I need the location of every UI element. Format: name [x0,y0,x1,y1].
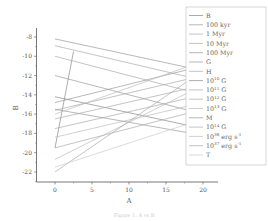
y-tick-label: -8 [26,33,32,40]
x-axis: 05101520 [37,182,219,193]
x-tick-label: 10 [125,186,133,193]
y-axis: -8-10-12-14-16-18-20-22 [22,28,36,182]
series-line [55,85,203,119]
series-line [55,61,203,114]
series-line [55,39,203,71]
series-line [55,71,203,172]
legend: B100 kyr1 Myr10 Myr100 MyrGH1010 G1011 G… [186,7,266,165]
y-tick-label: -18 [22,129,32,136]
y-tick-label: -14 [22,91,32,98]
legend-label: 100 kyr [206,21,231,29]
legend-label: H [206,68,212,75]
y-axis-label: B [12,105,20,110]
figure-caption: Figure 1. A vs B [114,212,155,219]
line-chart: -8-10-12-14-16-18-20-22 05101520 A B B10… [0,0,268,221]
legend-label: 100 Myr [206,49,234,57]
y-tick-label: -10 [22,52,32,59]
series-line [55,76,203,115]
legend-label: B [206,12,211,19]
legend-label: 10 Myr [206,40,230,48]
series-line [55,76,203,111]
y-tick-label: -22 [22,168,32,175]
series-line [55,56,203,95]
y-tick-label: -20 [22,149,32,156]
x-tick-label: 20 [199,186,207,193]
legend-label: G [206,58,211,65]
y-tick-label: -16 [22,110,32,117]
series-line [55,46,203,81]
x-axis-label: A [125,197,132,205]
legend-label: 1 Myr [206,30,226,38]
series-line [55,85,203,159]
legend-label: 1037 erg s-1 [206,141,242,150]
series-line [55,66,203,103]
series-line [55,119,203,167]
x-tick-label: 0 [53,186,57,193]
legend-label: M [206,114,213,121]
plot-lines [55,39,203,172]
x-tick-label: 5 [90,186,94,193]
x-tick-label: 15 [162,186,170,193]
y-tick-label: -12 [22,72,32,79]
series-line [55,109,203,148]
series-line [55,103,203,138]
legend-label: 1036 erg s-1 [206,132,242,141]
